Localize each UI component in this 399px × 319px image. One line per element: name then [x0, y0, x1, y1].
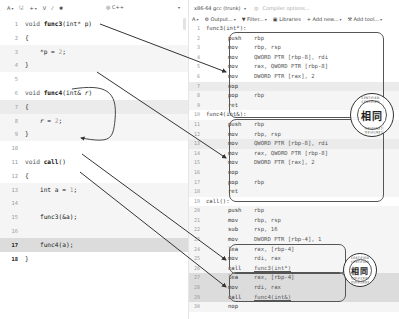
source-code[interactable]: 1void func3(int* p) 2{ 3 *p = 2; 4} 5 6v… [0, 17, 188, 265]
line-number: 19 [189, 197, 206, 207]
line-number: 15 [0, 211, 25, 225]
code-line: 11void call() [0, 155, 188, 169]
line-number: 16 [189, 168, 206, 178]
line-number: 13 [189, 139, 206, 149]
line-number: 8 [189, 91, 206, 101]
code-line: 18} [0, 252, 188, 266]
func3-call-asm-box [229, 244, 346, 274]
chevron-down-icon: ▾ [234, 17, 236, 22]
code-line: 12{ [0, 169, 188, 183]
stamp-ring-text: CERTIFIED CERTIFIED [351, 256, 369, 264]
line-number: 4 [189, 53, 206, 63]
certified-stamp-1: CERTIFIED CERTIFIED 相同 CERTIFIED CERTIFI… [350, 93, 394, 137]
code-line: 9} [0, 127, 188, 141]
options-icon: ◍ [254, 5, 258, 11]
line-number: 26 [189, 264, 206, 274]
line-number: 25 [189, 254, 206, 264]
filter-icon: ▼ Filter... [242, 16, 264, 22]
asm-line: 22subrsp, 16 [189, 225, 399, 235]
line-number: 3 [189, 43, 206, 53]
line-number: 20 [189, 206, 206, 216]
func4-call-asm-box [229, 272, 346, 302]
code-line: 4} [0, 58, 188, 72]
compiler-select[interactable]: x86-64 gcc (trunk) [194, 5, 244, 11]
line-number: 29 [189, 293, 206, 303]
code-line: 5 [0, 72, 188, 86]
line-number: 23 [189, 235, 206, 245]
chevron-down-icon: ▾ [35, 6, 37, 11]
save-button[interactable]: 🖫 [19, 4, 23, 12]
line-number: 18 [0, 253, 25, 267]
code-line: 1void func3(int* p) [0, 17, 188, 31]
code-line: 16 [0, 224, 188, 238]
chevron-down-icon: ▾ [380, 17, 382, 22]
font-size-icon: A [192, 16, 195, 22]
line-number: 8 [0, 115, 25, 129]
add-new-button[interactable]: + Add new...▾ [307, 16, 342, 22]
book-icon: ▣ Libraries [273, 16, 301, 22]
asm-line: 20pushrbp [189, 206, 399, 216]
code-line: 2{ [0, 31, 188, 45]
language-label: C++ [112, 4, 124, 10]
stamp-ring-text: CERTIFIED CERTIFIED [351, 276, 369, 284]
compiler-options-input[interactable]: Compiler options... [262, 5, 309, 11]
add-tool-button[interactable]: ⚒ Add tool...▾ [347, 16, 382, 22]
language-select[interactable]: ◎ C++ ▾ [106, 2, 186, 12]
pen-icon: ⁄ [52, 5, 53, 11]
font-size-button[interactable]: A▾ [192, 16, 198, 22]
line-number: 11 [189, 120, 206, 130]
settings-button[interactable]: ✱ [59, 5, 63, 11]
line-number: 12 [0, 170, 25, 184]
line-number: 15 [189, 158, 206, 168]
line-number: 11 [0, 156, 25, 170]
line-number: 5 [0, 73, 25, 87]
certified-stamp-2: CERTIFIED CERTIFIED 相同 CERTIFIED CERTIFI… [343, 253, 377, 287]
line-number: 5 [189, 62, 206, 72]
line-number: 14 [0, 197, 25, 211]
line-number: 22 [189, 225, 206, 235]
stamp-ring-text: CERTIFIED CERTIFIED [362, 126, 383, 134]
line-number: 10 [0, 142, 25, 156]
line-number: 1 [0, 18, 25, 32]
stamp-ring-text: CERTIFIED CERTIFIED [362, 96, 383, 104]
code-line: 8 r = 2; [0, 114, 188, 128]
plus-icon: + Add new... [307, 16, 339, 22]
line-number: 4 [0, 59, 25, 73]
code-line: 15 func3(&a); [0, 210, 188, 224]
line-number: 7 [0, 101, 25, 115]
code-line: 3 *p = 2; [0, 45, 188, 59]
code-line: 10 [0, 141, 188, 155]
line-number: 28 [189, 283, 206, 293]
save-icon: 🖫 [19, 4, 23, 12]
line-number: 2 [0, 32, 25, 46]
vim-icon: V [43, 5, 46, 11]
libraries-button[interactable]: ▣ Libraries [273, 16, 301, 22]
settings-icon: ✱ [59, 5, 63, 11]
line-number: 30 [189, 302, 206, 312]
line-number: 17 [0, 239, 25, 253]
line-number: 14 [189, 149, 206, 159]
font-size-button[interactable]: A▾ [7, 5, 13, 11]
line-number: 12 [189, 130, 206, 140]
code-line: 6void func4(int& r) [0, 86, 188, 100]
line-number: 13 [0, 184, 25, 198]
line-number: 27 [189, 273, 206, 283]
filter-button[interactable]: ▼ Filter...▾ [242, 16, 267, 22]
chevron-down-icon[interactable]: ▾ [244, 6, 246, 11]
line-number: 3 [0, 46, 25, 60]
code-line: 13 int a = 1; [0, 183, 188, 197]
code-line: 7{ [0, 100, 188, 114]
line-number: 9 [189, 101, 206, 111]
format-button[interactable]: ⁄ [52, 5, 53, 11]
line-number: 6 [189, 72, 206, 82]
line-number: 17 [189, 178, 206, 188]
line-number: 10 [189, 110, 206, 120]
add-button[interactable]: +▾ [29, 5, 36, 11]
chevron-down-icon: ▾ [196, 17, 198, 22]
add-icon: + [29, 5, 33, 11]
wrench-icon: ⚒ Add tool... [347, 16, 379, 22]
vim-mode-button[interactable]: V [43, 5, 46, 11]
cpp-logo-icon: ◎ [106, 4, 110, 10]
line-number: 16 [0, 225, 25, 239]
output-button[interactable]: ⚙ Output...▾ [204, 16, 235, 22]
